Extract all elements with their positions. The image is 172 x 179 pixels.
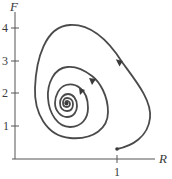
y-tick-label-4: 4 bbox=[2, 21, 8, 35]
y-tick-label-3: 3 bbox=[2, 54, 8, 68]
start-point bbox=[115, 147, 119, 151]
equilibrium-point bbox=[65, 102, 69, 106]
trajectory-curve bbox=[35, 25, 150, 149]
y-axis-label: F bbox=[9, 0, 19, 14]
y-tick-label-1: 1 bbox=[3, 119, 9, 133]
phase-plane-chart: 4 3 2 1 1 F R bbox=[0, 0, 172, 179]
x-axis-label: R bbox=[158, 151, 167, 166]
x-tick-label-1: 1 bbox=[114, 165, 120, 179]
direction-arrow-icon bbox=[89, 78, 96, 85]
y-tick-label-2: 2 bbox=[2, 86, 8, 100]
